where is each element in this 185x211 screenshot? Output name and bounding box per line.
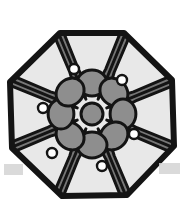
scan-artifact-right [159, 163, 180, 174]
eyelet-right [129, 129, 139, 139]
illustration-canvas: Octagonal Quilt Block Motif [0, 0, 185, 211]
rosette-hub [81, 103, 103, 125]
octagonal-quilt-block-motif [0, 0, 185, 211]
eyelet-top [69, 64, 79, 74]
eyelet-upper-right [117, 75, 127, 85]
scan-artifact-left [4, 164, 23, 175]
eyelet-bottom [97, 161, 107, 171]
eyelet-lower-left [47, 148, 57, 158]
eyelet-left [38, 103, 48, 113]
